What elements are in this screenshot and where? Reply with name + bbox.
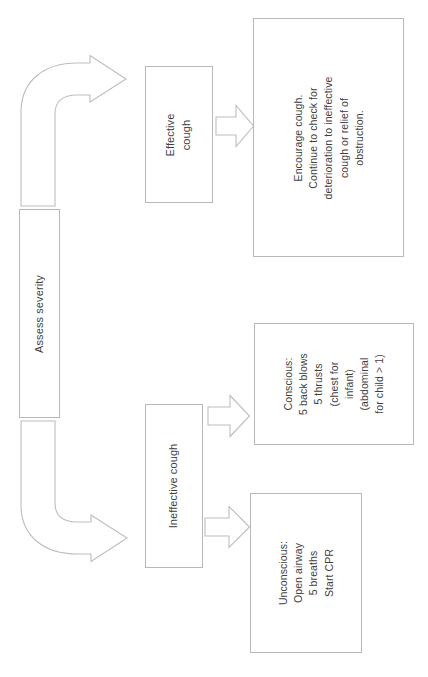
block-arrow-to-encourage: [215, 104, 255, 148]
node-effective-cough-label: Effective cough: [163, 113, 195, 156]
node-unconscious: Unconscious: Open airway 5 breaths Start…: [250, 493, 362, 653]
node-ineffective-cough-label: Ineffective cough: [166, 444, 182, 529]
curved-arrow-to-effective-cough: [18, 55, 146, 207]
node-encourage-cough-label: Encourage cough. Continue to check for d…: [290, 76, 366, 199]
node-unconscious-label: Unconscious: Open airway 5 breaths Start…: [276, 541, 337, 605]
node-encourage-cough: Encourage cough. Continue to check for d…: [253, 18, 404, 257]
node-ineffective-cough: Ineffective cough: [145, 404, 203, 568]
node-assess-severity-label: Assess severity: [32, 275, 48, 353]
block-arrow-to-conscious: [207, 394, 251, 438]
block-arrow-to-unconscious: [204, 505, 251, 549]
curved-arrow-to-ineffective-cough: [18, 420, 150, 572]
node-effective-cough: Effective cough: [145, 66, 213, 203]
node-assess-severity: Assess severity: [19, 209, 60, 418]
node-conscious: Conscious: 5 back blows 5 thrusts (chest…: [254, 323, 414, 445]
flowchart-canvas: Assess severity Effective cough Encourag…: [0, 0, 428, 677]
node-conscious-label: Conscious: 5 back blows 5 thrusts (chest…: [281, 353, 388, 415]
